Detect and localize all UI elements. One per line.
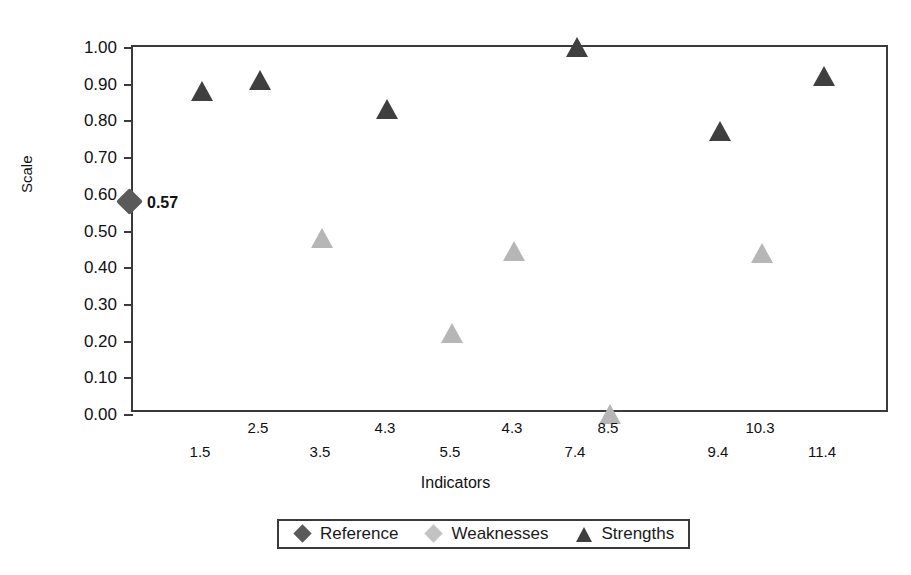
y-axis-tick: 0.30: [124, 304, 133, 306]
x-axis-tick-label: 1.5: [190, 443, 211, 460]
y-axis-tick: 0.50: [124, 231, 133, 233]
x-axis-tick-label: 4.3: [502, 419, 523, 436]
y-axis-tick: 0.20: [124, 341, 133, 343]
triangle-marker-icon: [441, 323, 463, 343]
triangle-marker-icon: [311, 228, 333, 248]
diamond-marker-icon: [424, 524, 444, 544]
x-axis-tick-label: 11.4: [808, 443, 836, 460]
y-axis-tick-label: 0.10: [84, 368, 117, 388]
triangle-marker-icon: [574, 524, 594, 544]
y-axis-tick-label: 0.70: [84, 148, 117, 168]
x-axis-tick-label: 5.5: [440, 443, 461, 460]
plot-area: 1.000.900.800.700.600.500.400.300.200.10…: [131, 45, 888, 412]
triangle-marker-icon: [813, 66, 835, 86]
y-axis-tick: 0.80: [124, 120, 133, 122]
y-axis-tick-label: 1.00: [84, 38, 117, 58]
y-axis-tick-label: 0.60: [84, 185, 117, 205]
scatter-chart-figure: Scale 1.000.900.800.700.600.500.400.300.…: [0, 0, 911, 575]
legend-item-label: Reference: [320, 524, 398, 544]
triangle-marker-icon: [376, 99, 398, 119]
y-axis-tick-label: 0.80: [84, 111, 117, 131]
x-axis-tick-label: 4.3: [375, 419, 396, 436]
x-axis-tick-label: 3.5: [310, 443, 331, 460]
y-axis-tick-label: 0.50: [84, 222, 117, 242]
y-axis-tick-label: 0.30: [84, 295, 117, 315]
x-axis-tick-label: 9.4: [708, 443, 729, 460]
legend-item-weaknesses[interactable]: Weaknesses: [424, 524, 548, 544]
y-axis-tick: 1.00: [124, 47, 133, 49]
y-axis-tick: 0.70: [124, 157, 133, 159]
triangle-marker-icon: [566, 37, 588, 57]
x-axis-tick-label: 8.5: [598, 419, 619, 436]
data-point-value-label: 0.57: [147, 194, 178, 212]
chart-legend: ReferenceWeaknessesStrengths: [277, 519, 690, 549]
y-axis-title: Scale: [18, 155, 35, 193]
x-axis-tick-label: 10.3: [745, 419, 774, 436]
triangle-marker-icon: [709, 121, 731, 141]
legend-item-label: Weaknesses: [451, 524, 548, 544]
y-axis-tick-label: 0.40: [84, 258, 117, 278]
legend-item-label: Strengths: [601, 524, 674, 544]
diamond-marker-icon: [293, 524, 313, 544]
y-axis-tick: 0.90: [124, 84, 133, 86]
y-axis-tick-label: 0.90: [84, 75, 117, 95]
triangle-marker-icon: [751, 243, 773, 263]
legend-item-strengths[interactable]: Strengths: [574, 524, 674, 544]
y-axis-tick: 0.00: [124, 414, 133, 416]
triangle-marker-icon: [249, 70, 271, 90]
y-axis-tick-label: 0.00: [84, 405, 117, 425]
x-axis-tick-label: 7.4: [565, 443, 586, 460]
y-axis-tick: 0.40: [124, 267, 133, 269]
triangle-marker-icon: [503, 241, 525, 261]
y-axis-tick: 0.10: [124, 377, 133, 379]
diamond-marker-icon: [116, 188, 143, 215]
chart-title-clipped: [18, 0, 638, 4]
triangle-marker-icon: [191, 81, 213, 101]
x-axis-title: Indicators: [0, 474, 911, 492]
legend-item-reference[interactable]: Reference: [293, 524, 398, 544]
y-axis-tick-label: 0.20: [84, 332, 117, 352]
x-axis-tick-label: 2.5: [248, 419, 269, 436]
